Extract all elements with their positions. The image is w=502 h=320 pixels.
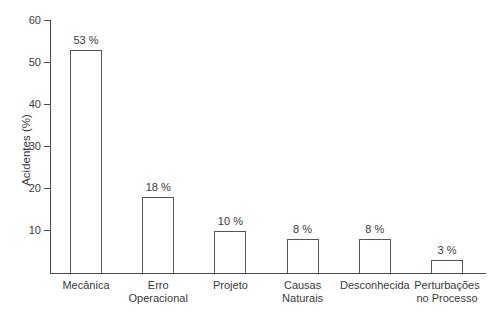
plot-area: Acidentes (%) 10203040506053 %Mecânica18… bbox=[0, 0, 502, 320]
bar-desconhecida bbox=[359, 239, 391, 273]
bar-mecanica bbox=[70, 50, 102, 273]
y-tick-label-50: 50 bbox=[11, 57, 41, 68]
y-tick-mark-30 bbox=[44, 146, 50, 147]
x-category-label-perturbacoes-no-processo: Perturbaçõesno Processo bbox=[404, 279, 490, 305]
y-tick-mark-50 bbox=[44, 62, 50, 63]
y-axis-line bbox=[50, 20, 51, 273]
bar-projeto bbox=[214, 231, 246, 273]
x-category-label-line: Naturais bbox=[260, 292, 346, 305]
x-category-label-line: no Processo bbox=[404, 292, 490, 305]
y-tick-mark-20 bbox=[44, 188, 50, 189]
bar-value-label-causas-naturais: 8 % bbox=[278, 223, 328, 235]
x-category-label-line: Operacional bbox=[115, 292, 201, 305]
x-axis-line bbox=[50, 273, 486, 274]
y-tick-label-40: 40 bbox=[11, 99, 41, 110]
y-tick-mark-40 bbox=[44, 104, 50, 105]
y-tick-mark-10 bbox=[44, 230, 50, 231]
bar-value-label-mecanica: 53 % bbox=[61, 34, 111, 46]
y-tick-label-10: 10 bbox=[11, 225, 41, 236]
bar-value-label-projeto: 10 % bbox=[205, 215, 255, 227]
bar-causas-naturais bbox=[287, 239, 319, 273]
y-tick-label-60: 60 bbox=[11, 15, 41, 26]
y-tick-label-30: 30 bbox=[11, 141, 41, 152]
x-category-label-line: Perturbações bbox=[404, 279, 490, 292]
bar-value-label-desconhecida: 8 % bbox=[350, 223, 400, 235]
y-tick-label-20: 20 bbox=[11, 183, 41, 194]
bar-perturbacoes-no-processo bbox=[431, 260, 463, 273]
y-tick-mark-60 bbox=[44, 20, 50, 21]
accidents-bar-chart: Acidentes (%) 10203040506053 %Mecânica18… bbox=[0, 0, 502, 320]
bar-value-label-perturbacoes-no-processo: 3 % bbox=[422, 244, 472, 256]
bar-erro-operacional bbox=[142, 197, 174, 273]
bar-value-label-erro-operacional: 18 % bbox=[133, 181, 183, 193]
